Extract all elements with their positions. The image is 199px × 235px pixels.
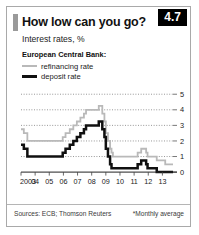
legend-swatch-refinancing-icon [22, 65, 37, 67]
chart-x-axis-labels: 200304050607080910111213 [20, 177, 166, 186]
legend-item-refinancing-rate: refinancing rate [22, 61, 106, 71]
chart-legend: European Central Bank: refinancing rate … [22, 50, 106, 81]
legend-group-title: European Central Bank: [22, 50, 106, 59]
svg-text:2: 2 [180, 137, 184, 146]
chart-svg: 012345 200304050607080910111213 [7, 84, 190, 196]
svg-text:06: 06 [59, 177, 67, 186]
legend-swatch-deposit-icon [22, 75, 37, 78]
svg-text:07: 07 [74, 177, 82, 186]
page-title: How low can you go? [22, 15, 146, 29]
title-accent-bar [13, 14, 18, 31]
svg-text:1: 1 [180, 152, 184, 161]
chart-footer: Sources: ECB; Thomson Reuters *Monthly a… [7, 204, 190, 227]
legend-label-deposit: deposit rate [41, 72, 81, 81]
chart-x-axis [21, 172, 177, 176]
svg-text:08: 08 [88, 177, 96, 186]
svg-text:4: 4 [180, 105, 184, 114]
chart-source: Sources: ECB; Thomson Reuters [14, 210, 111, 217]
chart-plot-area: 012345 200304050607080910111213 [7, 84, 190, 196]
svg-text:04: 04 [31, 177, 39, 186]
svg-text:12: 12 [144, 177, 152, 186]
chart-subtitle: Interest rates, % [22, 34, 85, 44]
svg-text:3: 3 [180, 121, 184, 130]
svg-text:10: 10 [116, 177, 124, 186]
chart-card: How low can you go? 4.7 Interest rates, … [6, 6, 191, 227]
chart-y-axis-labels: 012345 [180, 90, 184, 177]
legend-item-deposit-rate: deposit rate [22, 71, 106, 81]
svg-text:05: 05 [45, 177, 53, 186]
svg-text:11: 11 [130, 177, 137, 186]
svg-text:13: 13 [158, 177, 166, 186]
chart-series-lines [21, 106, 173, 172]
svg-text:09: 09 [102, 177, 110, 186]
legend-label-refinancing: refinancing rate [41, 62, 93, 71]
svg-text:0: 0 [180, 168, 184, 177]
chart-footnote: *Monthly average [133, 210, 184, 217]
svg-text:5: 5 [180, 90, 184, 99]
chart-number-badge: 4.7 [158, 9, 187, 26]
